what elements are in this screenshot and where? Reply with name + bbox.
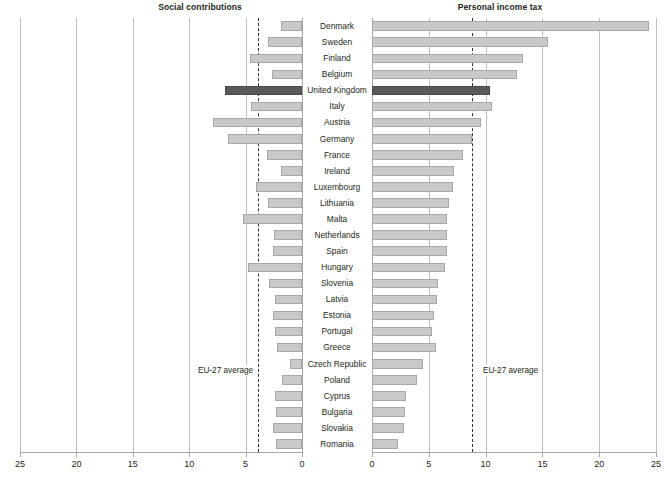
bar-row-left (20, 50, 302, 67)
bar-social-contributions (282, 375, 302, 385)
country-label: France (303, 147, 371, 164)
bar-row-left (20, 388, 302, 405)
bar-social-contributions (273, 246, 302, 256)
country-label: Sweden (303, 34, 371, 51)
axis-ticks: 25201510500510152025 (0, 459, 664, 473)
bar-row-left (20, 339, 302, 356)
gridline-right-25 (656, 18, 657, 452)
bar-row-left (20, 356, 302, 373)
bar-personal-income-tax (372, 230, 447, 240)
bar-row-left (20, 291, 302, 308)
country-label: Italy (303, 98, 371, 115)
country-label: Luxembourg (303, 179, 371, 196)
bar-row-right (372, 179, 656, 196)
bar-row-right (372, 131, 656, 148)
bar-social-contributions (267, 150, 302, 160)
bar-row-right (372, 259, 656, 276)
bar-row-left (20, 98, 302, 115)
eu27-average-label-left: EU-27 average (196, 365, 255, 376)
country-label: Belgium (303, 66, 371, 83)
bar-personal-income-tax (372, 37, 548, 47)
bar-personal-income-tax (372, 327, 432, 337)
bar-social-contributions (275, 327, 302, 337)
axis-tick-left-10: 10 (184, 459, 194, 469)
bar-row-right (372, 50, 656, 67)
axis-tick-right-0: 0 (369, 459, 374, 469)
bar-row-right (372, 66, 656, 83)
bar-personal-income-tax (372, 86, 490, 96)
axis-tick-left-20: 20 (71, 459, 81, 469)
axis-tick-right-20: 20 (594, 459, 604, 469)
bar-social-contributions (243, 214, 302, 224)
tickmark-left-25 (20, 452, 21, 457)
axis-tick-left-5: 5 (243, 459, 248, 469)
bar-row-right (372, 195, 656, 212)
bar-social-contributions (276, 439, 302, 449)
country-label: Malta (303, 211, 371, 228)
bar-row-right (372, 34, 656, 51)
bar-row-left (20, 211, 302, 228)
bar-personal-income-tax (372, 263, 445, 273)
bar-social-contributions (251, 102, 302, 112)
axis-tick-right-5: 5 (426, 459, 431, 469)
bar-personal-income-tax (372, 375, 417, 385)
bar-personal-income-tax (372, 118, 481, 128)
country-label: Slovenia (303, 275, 371, 292)
bar-row-right (372, 436, 656, 453)
bar-row-right (372, 114, 656, 131)
bar-row-left (20, 372, 302, 389)
country-label: Latvia (303, 291, 371, 308)
bar-row-right (372, 420, 656, 437)
tickmark-left-0 (302, 452, 303, 457)
country-label: Bulgaria (303, 404, 371, 421)
country-label: Romania (303, 436, 371, 453)
chart-title-social-contributions: Social contributions (100, 2, 300, 12)
bar-row-right (372, 147, 656, 164)
bar-row-left (20, 34, 302, 51)
bar-personal-income-tax (372, 70, 517, 80)
bar-row-right (372, 388, 656, 405)
bar-social-contributions (268, 37, 302, 47)
bar-row-left (20, 179, 302, 196)
tickmark-right-0 (372, 452, 373, 457)
bar-social-contributions (268, 198, 302, 208)
bar-social-contributions (273, 423, 302, 433)
bar-personal-income-tax (372, 21, 649, 31)
bar-social-contributions (250, 54, 302, 64)
bar-row-left (20, 275, 302, 292)
bar-social-contributions (248, 263, 302, 273)
bar-personal-income-tax (372, 214, 447, 224)
country-label: Greece (303, 339, 371, 356)
country-label: Czech Republic (303, 356, 371, 373)
bar-row-left (20, 147, 302, 164)
bar-personal-income-tax (372, 246, 447, 256)
country-label: Poland (303, 372, 371, 389)
bar-social-contributions (272, 70, 302, 80)
chart-root: Social contributions Personal income tax… (0, 0, 664, 481)
bar-personal-income-tax (372, 150, 463, 160)
axis-tick-right-25: 25 (651, 459, 661, 469)
bar-row-left (20, 323, 302, 340)
tickmark-left-10 (189, 452, 190, 457)
bar-social-contributions (213, 118, 302, 128)
country-label: Finland (303, 50, 371, 67)
bar-personal-income-tax (372, 134, 472, 144)
chart-title-personal-income-tax: Personal income tax (400, 2, 600, 12)
bar-personal-income-tax (372, 407, 405, 417)
axis-tick-right-15: 15 (537, 459, 547, 469)
bar-personal-income-tax (372, 102, 492, 112)
bar-social-contributions (281, 166, 302, 176)
bar-personal-income-tax (372, 311, 434, 321)
axis-tick-right-10: 10 (481, 459, 491, 469)
country-label: Netherlands (303, 227, 371, 244)
bar-social-contributions (275, 391, 302, 401)
axis-tick-left-0: 0 (299, 459, 304, 469)
bar-row-left (20, 66, 302, 83)
country-label: Hungary (303, 259, 371, 276)
bar-row-right (372, 275, 656, 292)
country-label: Estonia (303, 307, 371, 324)
bar-social-contributions (281, 21, 302, 31)
eu27-average-label-right: EU-27 average (481, 365, 540, 376)
bar-row-left (20, 82, 302, 99)
tickmark-left-5 (246, 452, 247, 457)
